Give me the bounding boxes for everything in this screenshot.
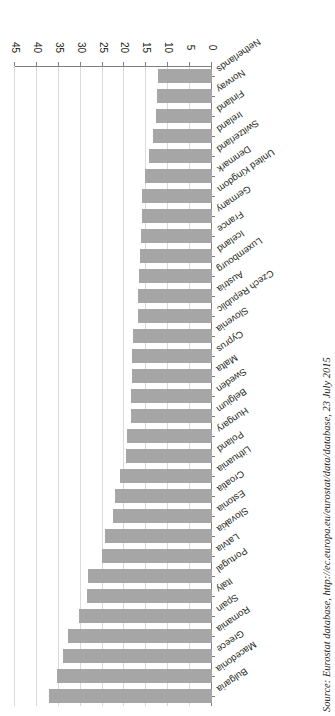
category-tick [212, 696, 215, 697]
category-tick [212, 276, 215, 277]
bar [127, 429, 212, 442]
category-tick [212, 576, 215, 577]
bar [145, 169, 212, 182]
category-tick [212, 116, 215, 117]
bar [157, 89, 212, 102]
bar-row: Italy [15, 589, 212, 602]
category-tick [212, 176, 215, 177]
category-tick [212, 136, 215, 137]
bar [142, 189, 212, 202]
bar-row: Denmark [15, 169, 212, 182]
tick-label-30: 30 [75, 42, 86, 53]
bar [149, 149, 212, 162]
bar-row: Sweden [15, 389, 212, 402]
bar-row: Luxembourg [15, 269, 212, 282]
bar-row: Slovakia [15, 529, 212, 542]
bar [131, 389, 212, 402]
bar [139, 269, 212, 282]
tick-label-20: 20 [119, 42, 130, 53]
category-tick [212, 656, 215, 657]
tick-label-5: 5 [185, 45, 196, 51]
category-tick [212, 96, 215, 97]
tick-label-10: 10 [163, 42, 174, 53]
bar-row: Switzerland [15, 149, 212, 162]
bar-row: Finland [15, 109, 212, 122]
bar-row: Croatia [15, 489, 212, 502]
bar [140, 249, 212, 262]
bar-row: Austria [15, 289, 212, 302]
bar-row: United Kingdom [15, 189, 212, 202]
bar [141, 229, 212, 242]
bar-row: Romania [15, 629, 212, 642]
bar-row: Macedonia [15, 669, 212, 682]
bar [57, 669, 212, 682]
bar [156, 109, 212, 122]
source-note-text: Source: Eurostat database, http://ec.eur… [321, 357, 332, 712]
category-tick [212, 536, 215, 537]
bar [68, 629, 212, 642]
bar-row: Estonia [15, 509, 212, 522]
bar-series: BulgariaMacedoniaGreeceRomaniaSpainItaly… [15, 66, 212, 706]
bar [102, 549, 212, 562]
category-tick [212, 336, 215, 337]
bar-row: Bulgaria [15, 689, 212, 702]
bar-row: Iceland [15, 249, 212, 262]
bar-row: Netherlands [15, 69, 212, 82]
bar-row: Malta [15, 369, 212, 382]
bar-row: Germany [15, 209, 212, 222]
bar [113, 509, 212, 522]
bar [138, 289, 212, 302]
bar-row: Poland [15, 449, 212, 462]
plot-area: 051015202530354045 BulgariaMacedoniaGree… [15, 66, 212, 706]
category-tick [212, 396, 215, 397]
bar [88, 569, 212, 582]
category-tick [212, 676, 215, 677]
category-tick [212, 76, 215, 77]
bar [138, 309, 212, 322]
bar [105, 529, 212, 542]
category-tick [212, 456, 215, 457]
bar [132, 349, 212, 362]
category-tick [212, 436, 215, 437]
bar-row: Slovenia [15, 329, 212, 342]
bar-chart-figure: 051015202530354045 BulgariaMacedoniaGree… [0, 0, 300, 716]
category-tick [212, 496, 215, 497]
tick-label-35: 35 [53, 42, 64, 53]
category-tick [212, 256, 215, 257]
bar [115, 489, 212, 502]
category-tick [212, 356, 215, 357]
category-tick [212, 316, 215, 317]
tick-label-0: 0 [207, 45, 218, 51]
bar [131, 409, 212, 422]
category-tick [212, 376, 215, 377]
bar-row: France [15, 229, 212, 242]
category-tick [212, 596, 215, 597]
category-tick [212, 296, 215, 297]
category-tick [212, 556, 215, 557]
bar-row: Portugal [15, 569, 212, 582]
category-tick [212, 156, 215, 157]
bar [63, 649, 212, 662]
bar [126, 449, 212, 462]
bar [158, 69, 212, 82]
tick-label-45: 45 [10, 42, 21, 53]
tick-label-25: 25 [97, 42, 108, 53]
bar-row: Hungary [15, 429, 212, 442]
category-tick [212, 476, 215, 477]
bar [153, 129, 212, 142]
bar-row: Greece [15, 649, 212, 662]
category-tick [212, 236, 215, 237]
bar [87, 589, 212, 602]
category-tick [212, 616, 215, 617]
bar-row: Cyprus [15, 349, 212, 362]
bar-row: Czech Republic [15, 309, 212, 322]
bar [133, 329, 212, 342]
category-tick [212, 416, 215, 417]
category-tick [212, 516, 215, 517]
bar [120, 469, 212, 482]
bar-row: Spain [15, 609, 212, 622]
bar [79, 609, 212, 622]
source-note: Source: Eurostat database, http://ec.eur… [319, 12, 333, 712]
category-tick [212, 216, 215, 217]
category-tick [212, 196, 215, 197]
